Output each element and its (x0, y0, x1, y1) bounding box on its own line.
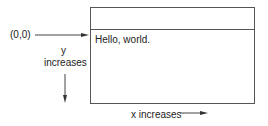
x-right-arrow-icon (180, 111, 208, 115)
arrows-layer (0, 0, 268, 126)
origin-arrow-icon (35, 33, 89, 37)
y-down-arrow-icon (63, 74, 67, 103)
